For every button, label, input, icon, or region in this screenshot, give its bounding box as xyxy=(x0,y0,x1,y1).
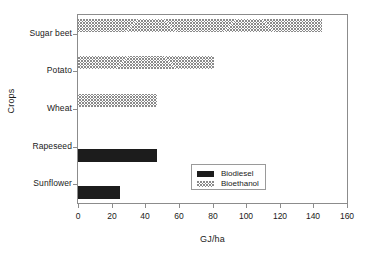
bar-bioethanol-potato xyxy=(78,56,214,69)
x-tick-label-140: 140 xyxy=(298,211,328,221)
legend-label-bioethanol: Bioethanol xyxy=(221,179,259,188)
x-tick-label-60: 60 xyxy=(164,211,194,221)
x-tick-label-40: 40 xyxy=(130,211,160,221)
bar-biodiesel-sunflower xyxy=(78,186,120,199)
bar-chart: Crops GJ/ha SunflowerRapeseedWheatPotato… xyxy=(0,0,373,261)
x-tick-label-80: 80 xyxy=(198,211,228,221)
legend-item-biodiesel: Biodiesel xyxy=(197,169,265,178)
x-tick xyxy=(145,204,146,208)
legend: Biodiesel Bioethanol xyxy=(191,164,266,190)
x-axis-title: GJ/ha xyxy=(77,234,348,244)
bar-bioethanol-wheat xyxy=(78,94,157,107)
legend-item-bioethanol: Bioethanol xyxy=(197,179,265,188)
x-tick-label-160: 160 xyxy=(332,211,362,221)
x-tick-label-0: 0 xyxy=(63,211,93,221)
y-tick xyxy=(73,109,77,110)
y-tick-label-wheat: Wheat xyxy=(0,103,72,113)
y-tick-label-sugar-beet: Sugar beet xyxy=(0,28,72,38)
x-tick xyxy=(112,204,113,208)
y-tick-label-sunflower: Sunflower xyxy=(0,178,72,188)
y-tick-label-potato: Potato xyxy=(0,65,72,75)
y-tick xyxy=(73,34,77,35)
x-tick xyxy=(78,204,79,208)
x-tick xyxy=(347,204,348,208)
x-tick-label-100: 100 xyxy=(231,211,261,221)
y-tick-label-rapeseed: Rapeseed xyxy=(0,141,72,151)
legend-swatch-biodiesel xyxy=(197,171,214,177)
bar-biodiesel-rapeseed xyxy=(78,149,157,162)
x-tick xyxy=(313,204,314,208)
x-tick xyxy=(213,204,214,208)
x-tick-label-120: 120 xyxy=(265,211,295,221)
legend-label-biodiesel: Biodiesel xyxy=(221,169,253,178)
x-tick xyxy=(179,204,180,208)
x-tick-label-20: 20 xyxy=(97,211,127,221)
y-tick xyxy=(73,184,77,185)
bar-bioethanol-sugar-beet xyxy=(78,19,322,32)
y-tick xyxy=(73,147,77,148)
y-axis-title: Crops xyxy=(6,71,16,131)
y-tick xyxy=(73,71,77,72)
x-tick xyxy=(280,204,281,208)
legend-swatch-bioethanol xyxy=(197,181,214,187)
x-tick xyxy=(246,204,247,208)
